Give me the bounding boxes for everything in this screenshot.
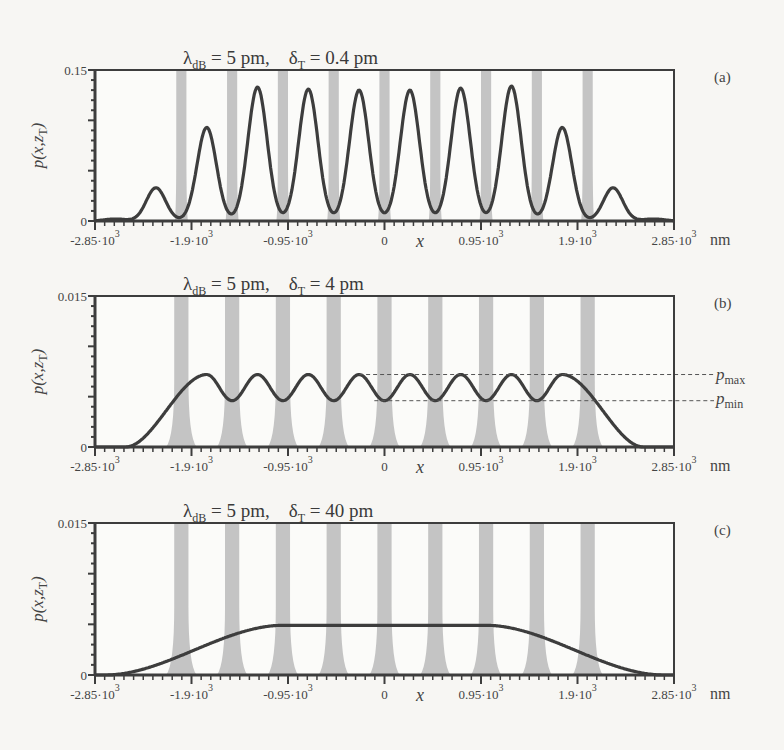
- x-tick-mantissa: 0: [381, 233, 388, 248]
- delta-value: = 0.4 pm: [305, 47, 378, 68]
- y-label-main: p(x,z: [28, 589, 47, 623]
- x-tick-exponent: 3: [308, 228, 313, 239]
- x-tick-exponent: 3: [499, 682, 504, 693]
- y-label-close: ): [28, 348, 47, 355]
- x-tick-exponent: 3: [115, 454, 120, 465]
- x-tick-mantissa: -1.9·10: [170, 459, 208, 474]
- pmax-sub: max: [725, 373, 746, 387]
- x-tick-label: 1.9·103: [558, 228, 597, 248]
- slit-bar: [378, 70, 391, 221]
- panel-title: λdB = 5 pm, δT = 40 pm: [183, 500, 373, 525]
- x-tick-mantissa: -0.95·10: [263, 459, 307, 474]
- panel-c: 00.015-2.85·103-1.9·103-0.95·10300.95·10…: [28, 500, 731, 705]
- x-tick-label: -2.85·103: [70, 228, 119, 248]
- y-axis-label: p(x,zT): [28, 576, 50, 623]
- x-tick-exponent: 3: [592, 682, 597, 693]
- delta-value: = 4 pm: [305, 273, 364, 294]
- lambda-sub: dB: [192, 284, 206, 298]
- x-axis-unit: nm: [710, 457, 731, 474]
- delta-value: = 40 pm: [305, 500, 373, 521]
- x-tick-label: -1.9·103: [170, 454, 213, 474]
- x-tick-mantissa: -2.85·10: [70, 459, 114, 474]
- panel-b: pmaxpmin00.015-2.85·103-1.9·103-0.95·103…: [28, 273, 745, 477]
- panel-label: (c): [714, 522, 731, 539]
- x-tick-exponent: 3: [308, 454, 313, 465]
- x-tick-mantissa: -2.85·10: [70, 687, 114, 702]
- x-tick-label: -2.85·103: [70, 682, 119, 702]
- x-tick-mantissa: 2.85·10: [651, 687, 691, 702]
- x-tick-label: 0: [381, 233, 388, 248]
- x-tick-exponent: 3: [208, 454, 213, 465]
- slit-bar: [226, 70, 239, 221]
- x-tick-exponent: 3: [115, 682, 120, 693]
- x-tick-exponent: 3: [692, 682, 697, 693]
- x-tick-exponent: 3: [115, 228, 120, 239]
- x-axis-unit: nm: [710, 685, 731, 702]
- x-tick-exponent: 3: [692, 228, 697, 239]
- x-tick-label: 1.9·103: [558, 454, 597, 474]
- x-tick-label: 2.85·103: [651, 228, 696, 248]
- x-tick-mantissa: -1.9·10: [170, 687, 208, 702]
- x-tick-label: -1.9·103: [170, 682, 213, 702]
- x-tick-mantissa: 2.85·10: [651, 233, 691, 248]
- x-axis-unit: nm: [710, 231, 731, 248]
- x-tick-mantissa: -0.95·10: [263, 233, 307, 248]
- y-tick-label-max: 0.015: [58, 516, 87, 531]
- delta-symbol: δ: [270, 273, 298, 294]
- panel-title: λdB = 5 pm, δT = 4 pm: [183, 273, 364, 298]
- slit-bar: [429, 70, 442, 221]
- slit-bar: [327, 70, 340, 221]
- x-tick-mantissa: 1.9·10: [558, 233, 592, 248]
- x-tick-exponent: 3: [208, 682, 213, 693]
- x-tick-exponent: 3: [592, 228, 597, 239]
- x-tick-mantissa: -2.85·10: [70, 233, 114, 248]
- x-tick-label: 2.85·103: [651, 454, 696, 474]
- x-tick-label: 0: [381, 459, 388, 474]
- figure: 00.15-2.85·103-1.9·103-0.95·10300.95·103…: [0, 0, 784, 750]
- pmin-sub: min: [725, 397, 744, 411]
- x-axis-label: x: [415, 457, 424, 477]
- x-tick-label: -0.95·103: [263, 454, 312, 474]
- x-tick-mantissa: 1.9·10: [558, 459, 592, 474]
- slit-bar: [530, 70, 543, 221]
- y-tick-label-max: 0.15: [64, 63, 87, 78]
- slit-bar: [581, 70, 594, 221]
- x-tick-mantissa: 0.95·10: [458, 459, 498, 474]
- x-tick-label: 1.9·103: [558, 682, 597, 702]
- panel-label: (b): [714, 295, 732, 312]
- x-axis-label: x: [415, 685, 424, 705]
- y-label-main: p(x,z: [28, 361, 47, 395]
- x-tick-label: 0.95·103: [458, 228, 503, 248]
- y-tick-label-min: 0: [81, 668, 88, 683]
- slit-bar: [175, 70, 188, 221]
- x-axis-label: x: [415, 231, 424, 251]
- x-tick-mantissa: 2.85·10: [651, 459, 691, 474]
- lambda-sub: dB: [192, 511, 206, 525]
- y-label-main: p(x,z: [28, 135, 47, 169]
- pmin-label: pmin: [715, 389, 743, 411]
- pmax-p: p: [715, 365, 725, 384]
- x-tick-mantissa: 0: [381, 687, 388, 702]
- y-tick-label-min: 0: [81, 440, 88, 455]
- slit-bar: [479, 70, 492, 221]
- x-tick-mantissa: 1.9·10: [558, 687, 592, 702]
- x-tick-label: 0.95·103: [458, 454, 503, 474]
- y-label-close: ): [28, 576, 47, 583]
- x-tick-exponent: 3: [308, 682, 313, 693]
- x-tick-mantissa: 0: [381, 459, 388, 474]
- x-tick-exponent: 3: [499, 228, 504, 239]
- x-tick-exponent: 3: [208, 228, 213, 239]
- delta-symbol: δ: [270, 47, 298, 68]
- y-tick-label-max: 0.015: [58, 289, 87, 304]
- pmax-label: pmax: [715, 365, 745, 387]
- x-tick-label: 2.85·103: [651, 682, 696, 702]
- x-tick-mantissa: -0.95·10: [263, 687, 307, 702]
- x-tick-label: -0.95·103: [263, 228, 312, 248]
- x-tick-mantissa: 0.95·10: [458, 687, 498, 702]
- x-tick-exponent: 3: [499, 454, 504, 465]
- slits: [166, 296, 603, 447]
- panel-a: 00.15-2.85·103-1.9·103-0.95·10300.95·103…: [28, 47, 731, 251]
- x-tick-label: 0.95·103: [458, 682, 503, 702]
- lambda-value: = 5 pm,: [206, 273, 270, 294]
- x-tick-exponent: 3: [692, 454, 697, 465]
